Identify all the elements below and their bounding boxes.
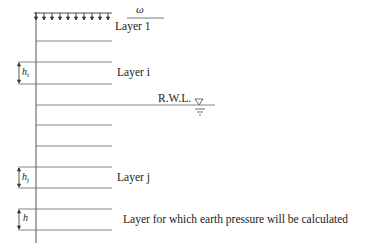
layer-i-label: Layer i <box>117 66 150 78</box>
surcharge-load <box>34 13 112 20</box>
layer-j-label: Layer j <box>117 171 150 183</box>
target-layer-label: Layer for which earth pressure will be c… <box>123 213 348 225</box>
layer-j-thickness: hj <box>22 171 29 184</box>
water-table-icon <box>195 99 205 115</box>
water-level-label: R.W.L. <box>158 92 191 104</box>
thickness-subscript: j <box>27 176 29 184</box>
target-layer-thickness: h <box>23 212 28 223</box>
layer-i-thickness: hi <box>22 66 29 79</box>
layer-1-label: Layer 1 <box>115 20 150 32</box>
thickness-subscript: i <box>27 71 29 79</box>
surcharge-symbol: ω <box>136 3 144 15</box>
dimension-arrows <box>18 63 21 229</box>
